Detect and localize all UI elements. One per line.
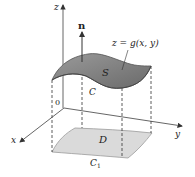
- region-label: D: [98, 134, 107, 145]
- origin-label: 0: [55, 98, 60, 107]
- x-axis: [20, 108, 64, 142]
- surface-equation-label: z = g(x, y): [111, 38, 159, 48]
- z-axis-label: z: [53, 2, 59, 12]
- normal-label: n: [78, 20, 86, 31]
- x-axis-label: x: [11, 135, 16, 145]
- surface-integral-diagram: z n z = g(x, y) S C 0 x y D C1: [0, 0, 195, 177]
- boundary-curve-label: C: [89, 87, 96, 97]
- surface-label: S: [102, 67, 109, 78]
- projected-curve-label: C1: [90, 158, 101, 169]
- y-axis-label: y: [174, 129, 181, 139]
